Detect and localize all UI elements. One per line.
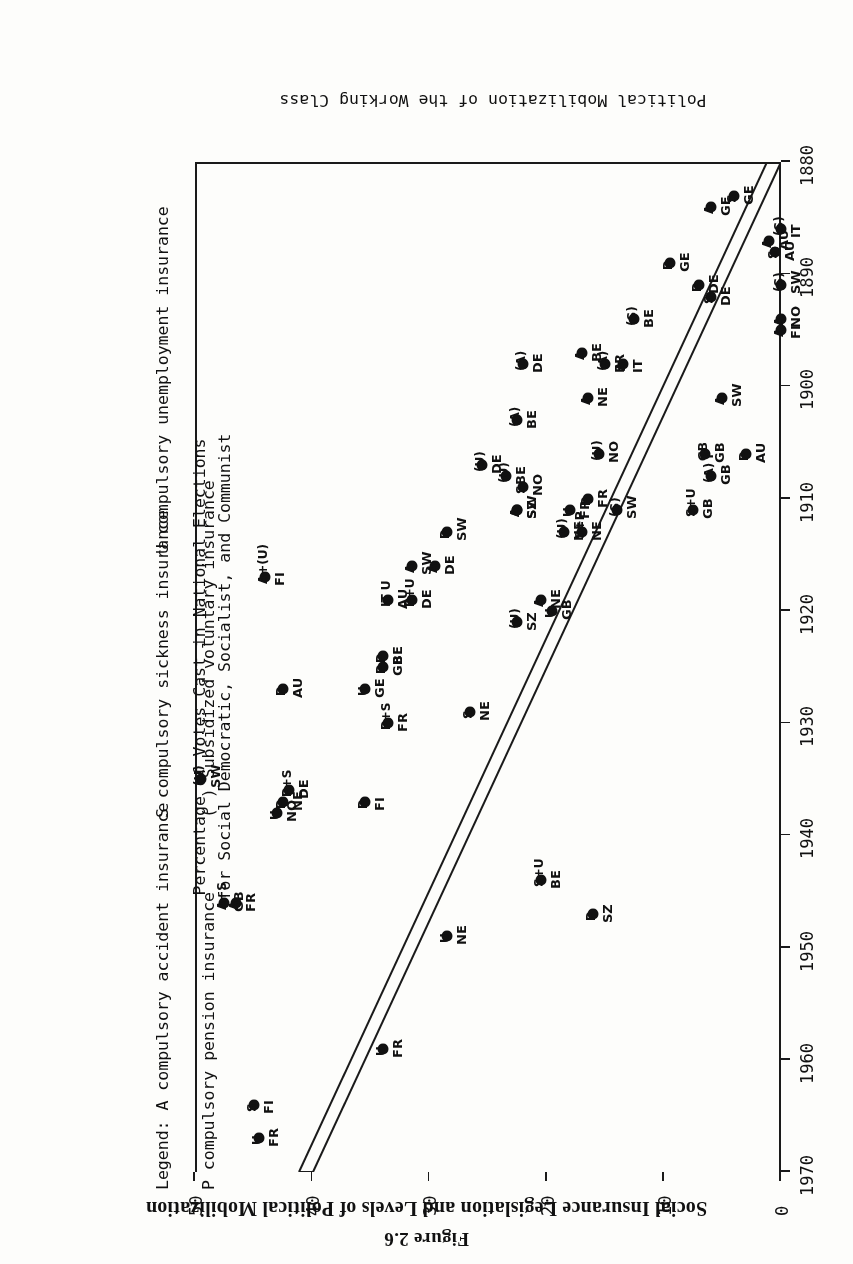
x-axis-tick-label: 1950 bbox=[797, 931, 817, 972]
data-point-country-label: NO bbox=[284, 800, 299, 822]
x-axis-tick bbox=[781, 609, 790, 611]
data-point-type-label: U bbox=[268, 810, 282, 820]
legend-entry: U compulsory unemployment insurance bbox=[153, 206, 172, 554]
x-axis-tick bbox=[781, 497, 790, 499]
x-axis-tick bbox=[781, 385, 790, 387]
data-point-type-label: P bbox=[584, 912, 598, 921]
data-point-country-label: IT bbox=[788, 225, 803, 239]
data-point-country-label: GB bbox=[718, 465, 733, 486]
figure-page: Figure 2.6 Social Insurance Legislation … bbox=[0, 0, 853, 1264]
data-point-type-label: (S) bbox=[608, 497, 622, 517]
x-axis-tick bbox=[781, 160, 790, 162]
x-axis-tick bbox=[781, 1058, 790, 1060]
y-axis-tick bbox=[662, 1172, 664, 1181]
data-point-country-label: NE bbox=[454, 926, 469, 946]
x-axis-tick-label: 1910 bbox=[797, 482, 817, 523]
y-axis-tick-label: 10 bbox=[655, 1196, 675, 1216]
data-point-country-label: SZ bbox=[524, 612, 539, 631]
y-axis-tick bbox=[779, 1172, 781, 1181]
y-axis-tick bbox=[193, 1172, 195, 1181]
data-point-country-label: FI bbox=[261, 1100, 276, 1114]
data-point-type-label: S bbox=[514, 486, 528, 495]
data-point-country-label: DE bbox=[419, 589, 434, 609]
data-point-type-label: P bbox=[661, 261, 675, 270]
data-point-type-label: A bbox=[573, 350, 587, 359]
data-point-country-label: SW bbox=[624, 495, 639, 519]
data-point-type-label: S+U bbox=[532, 859, 546, 887]
legend-entry: ( ) Subsidized voluntary insurance bbox=[199, 480, 218, 818]
data-point-type-label: U bbox=[356, 687, 370, 697]
data-point-country-label: GB bbox=[390, 655, 405, 676]
data-point-type-label: S bbox=[461, 710, 475, 719]
data-point-type-label: A bbox=[403, 564, 417, 573]
y-axis-tick-label: 0 bbox=[772, 1206, 792, 1216]
data-point-type-label: (U) bbox=[473, 451, 487, 472]
data-point-country-label: DE bbox=[530, 353, 545, 373]
data-point-type-label: S+U bbox=[684, 488, 698, 516]
y-axis-tick-label: 40 bbox=[303, 1196, 323, 1216]
data-point-country-label: NE bbox=[595, 387, 610, 407]
scatter-plot: 1880189019001910192019301940195019601970… bbox=[195, 162, 781, 1172]
x-axis-title: Political Mobilization of the Working Cl… bbox=[173, 91, 813, 110]
data-point-country-label: NO bbox=[606, 441, 621, 463]
data-point-country-label: NO bbox=[530, 475, 545, 497]
x-axis-tick bbox=[781, 1170, 790, 1172]
data-point-country-label: GE bbox=[741, 185, 756, 205]
data-point-type-label: P bbox=[356, 800, 370, 809]
data-point-country-label: DE bbox=[442, 555, 457, 575]
data-point-type-label: P bbox=[274, 688, 288, 697]
legend-entry: S compulsory sickness insurance bbox=[153, 510, 172, 818]
y-axis-tick-label: 20 bbox=[538, 1196, 558, 1216]
x-axis-tick-label: 1940 bbox=[797, 818, 817, 859]
x-axis-tick bbox=[781, 834, 790, 836]
data-point-country-label: DE bbox=[718, 286, 733, 306]
data-point-country-label: FR bbox=[266, 1128, 281, 1147]
data-point-type-label: A bbox=[508, 508, 522, 517]
data-point-country-label: NE bbox=[477, 701, 492, 721]
data-point-type-label: P+U bbox=[403, 578, 417, 607]
data-point-country-label: SW bbox=[454, 518, 469, 542]
data-point-country-label: SW bbox=[524, 495, 539, 519]
trend-band bbox=[195, 162, 781, 1172]
data-point-type-label: U bbox=[250, 1136, 264, 1146]
x-axis-tick bbox=[781, 946, 790, 948]
data-point-type-label: A bbox=[532, 597, 546, 606]
data-point-type-label: U bbox=[543, 608, 557, 618]
data-point-country-label: GB bbox=[700, 498, 715, 519]
data-point-country-label: BE bbox=[548, 870, 563, 889]
data-point-country-label: SW bbox=[729, 383, 744, 407]
data-point-type-label: A+(U) bbox=[256, 544, 270, 584]
data-point-type-label: S bbox=[245, 1103, 259, 1112]
data-point-country-label: NE bbox=[589, 522, 604, 542]
data-point-type-label: A bbox=[579, 395, 593, 404]
data-point-type-label: U bbox=[374, 1046, 388, 1056]
data-point-type-label: P bbox=[737, 452, 751, 461]
data-point-type-label: (U) bbox=[590, 440, 604, 461]
y-axis-tick bbox=[545, 1172, 547, 1181]
data-point-type-label: S bbox=[725, 194, 739, 203]
legend: Legend: A compulsory accident insuranceS… bbox=[0, 1050, 153, 1190]
data-point-type-label: S+P bbox=[573, 512, 587, 540]
data-point-type-label: (U) bbox=[555, 519, 569, 540]
data-point-type-label: (A) bbox=[508, 407, 522, 427]
data-point-type-label: A bbox=[772, 328, 786, 337]
data-point-country-label: FI bbox=[788, 326, 803, 340]
data-point-type-label: P bbox=[374, 665, 388, 674]
x-axis-tick-label: 1970 bbox=[797, 1155, 817, 1196]
data-point-type-label: IT U bbox=[379, 580, 393, 607]
data-point-type-label: (A) P bbox=[702, 450, 716, 483]
data-point-country-label: IT bbox=[630, 359, 645, 373]
data-point-country-label: BE bbox=[524, 410, 539, 429]
data-point-type-label: (U) bbox=[497, 463, 511, 484]
y-axis-tick-label: 30 bbox=[420, 1196, 440, 1216]
data-point-type-label: A bbox=[702, 205, 716, 214]
axis-bottom-spine bbox=[195, 162, 781, 164]
data-point-country-label: GE bbox=[372, 679, 387, 699]
data-point-type-label: (A) bbox=[514, 351, 528, 371]
legend-entry: Legend: A compulsory accident insurance bbox=[153, 803, 172, 1190]
data-point-country-label: AU bbox=[753, 443, 768, 463]
legend-entry: P compulsory pension insurance bbox=[199, 892, 218, 1190]
data-point-country-label: GB bbox=[559, 599, 574, 620]
data-point-country-label: GE bbox=[677, 252, 692, 272]
data-point-type-label: S bbox=[702, 295, 716, 304]
